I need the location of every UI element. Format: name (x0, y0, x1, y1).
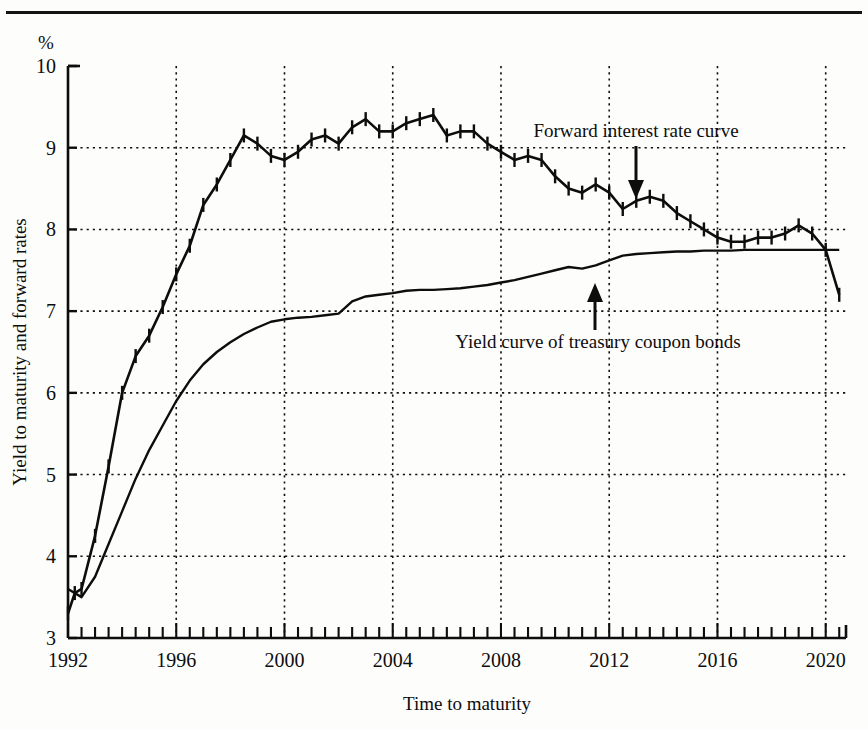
axis-layer (68, 66, 846, 638)
x-tick-label: 2000 (264, 649, 304, 671)
y-tick-label: 7 (46, 300, 56, 322)
y-tick-label: 10 (36, 55, 56, 77)
series-line (68, 115, 839, 613)
annotation-layer: Forward interest rate curveYield curve o… (455, 120, 740, 352)
series-line (68, 250, 839, 597)
yield-curve-annotation-label: Yield curve of treasury coupon bonds (455, 331, 740, 352)
x-tick-label: 2008 (481, 649, 521, 671)
x-axis-title: Time to maturity (403, 693, 532, 714)
x-tick-label: 2004 (373, 649, 413, 671)
x-tick-label: 1996 (156, 649, 196, 671)
y-tick-label: 3 (46, 627, 56, 649)
chart-canvas: 3456789101992199620002004200820122016202… (0, 0, 868, 730)
y-tick-label: 4 (46, 545, 56, 567)
y-tick-label: 9 (46, 137, 56, 159)
arrow-down-icon-head (628, 180, 644, 199)
y-tick-label: 6 (46, 382, 56, 404)
y-tick-label: 8 (46, 218, 56, 240)
y-tick-label: 5 (46, 464, 56, 486)
yield-curve-figure: 3456789101992199620002004200820122016202… (0, 0, 868, 730)
series-layer (68, 108, 839, 620)
x-tick-label: 2016 (697, 649, 737, 671)
grid-layer (68, 66, 846, 638)
x-tick-label: 2020 (806, 649, 846, 671)
x-tick-label: 1992 (48, 649, 88, 671)
forward-curve-annotation-label: Forward interest rate curve (533, 120, 738, 141)
x-tick-label: 2012 (589, 649, 629, 671)
y-axis-unit-label: % (38, 32, 54, 53)
y-axis-title: Yield to maturity and forward rates (9, 218, 30, 486)
arrow-up-icon-head (587, 283, 603, 302)
